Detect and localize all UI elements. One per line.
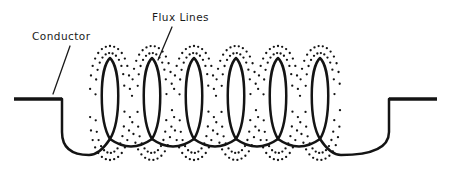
- conductor-label: Conductor: [32, 30, 91, 42]
- diagram-background: [0, 0, 451, 178]
- diagram-canvas: Conductor Flux Lines: [0, 0, 451, 178]
- solenoid-flux-diagram: Conductor Flux Lines: [0, 0, 451, 178]
- flux-lines-label: Flux Lines: [152, 11, 209, 23]
